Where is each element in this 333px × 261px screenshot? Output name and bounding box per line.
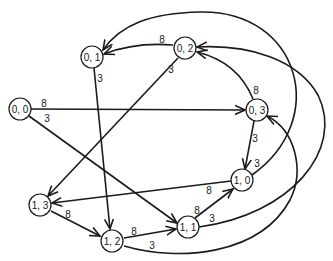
- node-0-0: 0, 0: [9, 98, 31, 120]
- edge-02-01: [104, 44, 173, 54]
- edge-13-12: [51, 211, 100, 236]
- node-0-2: 0, 2: [174, 37, 196, 59]
- node-1-3: 1, 3: [29, 194, 51, 216]
- edge-03-02: [197, 52, 253, 99]
- svg-text:0, 2: 0, 2: [177, 43, 194, 54]
- weight-02-01: 8: [159, 34, 165, 45]
- weight-03-10: 3: [252, 133, 258, 144]
- weight-11-02: 3: [209, 213, 215, 224]
- svg-text:0, 1: 0, 1: [84, 52, 101, 63]
- weight-11-10: 8: [194, 205, 200, 216]
- weight-00-11: 3: [44, 113, 50, 124]
- edge-10-13: [52, 181, 231, 203]
- node-0-3: 0, 3: [246, 99, 268, 121]
- edge-02-13: [48, 58, 178, 196]
- svg-text:1, 0: 1, 0: [234, 175, 251, 186]
- weight-12-11: 8: [131, 226, 137, 237]
- weight-02-13: 3: [168, 64, 174, 75]
- edge-03-10: [245, 121, 254, 169]
- svg-text:1, 3: 1, 3: [32, 200, 49, 211]
- edge-01-12: [94, 68, 110, 229]
- weight-00-03: 8: [41, 98, 47, 109]
- node-1-0: 1, 0: [231, 169, 253, 191]
- node-0-1: 0, 1: [81, 46, 103, 68]
- weight-12-03: 3: [149, 240, 155, 251]
- node-1-1: 1, 1: [177, 216, 199, 238]
- svg-text:1, 2: 1, 2: [104, 236, 121, 247]
- graph-diagram: 8 3 3 8 3 8 3 8 3 8 3 8 3 8 0, 0 0, 1 0,…: [0, 0, 333, 261]
- edge-11-02: [197, 47, 325, 227]
- weight-13-12: 8: [65, 209, 71, 220]
- edge-10-01: [103, 12, 296, 175]
- svg-text:1, 1: 1, 1: [180, 222, 197, 233]
- svg-text:0, 3: 0, 3: [249, 105, 266, 116]
- weight-03-02: 8: [253, 85, 259, 96]
- node-1-2: 1, 2: [101, 230, 123, 252]
- edge-00-03: [31, 109, 245, 110]
- weight-10-01: 3: [254, 158, 260, 169]
- weight-10-13: 8: [206, 185, 212, 196]
- weight-01-12: 3: [97, 73, 103, 84]
- svg-text:0, 0: 0, 0: [12, 104, 29, 115]
